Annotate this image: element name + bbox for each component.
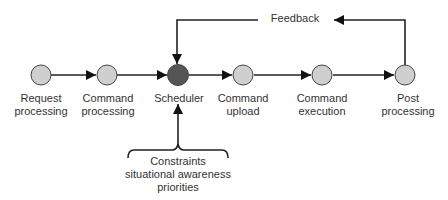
feedback-line-right — [334, 20, 405, 65]
node-command-execution — [312, 65, 332, 85]
label-line-2: execution — [297, 105, 348, 118]
label-line-2: upload — [218, 105, 269, 118]
label-command-upload: Command upload — [218, 92, 269, 118]
label-scheduler: Scheduler — [154, 92, 204, 105]
feedback-label: Feedback — [267, 12, 323, 25]
feedback-loop — [177, 20, 405, 65]
label-line-2: processing — [381, 105, 434, 118]
label-line-2: processing — [14, 105, 67, 118]
constraints-line-3: priorities — [125, 181, 231, 194]
constraints-brace — [128, 104, 228, 158]
label-command-processing: Command processing — [81, 92, 134, 118]
label-post-processing: Post processing — [381, 92, 434, 118]
feedback-line-left — [177, 20, 258, 64]
constraints-label: Constraints situational awareness priori… — [125, 155, 231, 194]
node-command-upload — [233, 65, 253, 85]
node-post-processing — [395, 65, 415, 85]
label-request-processing: Request processing — [14, 92, 67, 118]
label-line-1: Command — [218, 92, 269, 105]
node-scheduler — [168, 65, 189, 86]
node-request-processing — [31, 65, 51, 85]
label-command-execution: Command execution — [297, 92, 348, 118]
node-command-processing — [97, 65, 117, 85]
label-line-2: processing — [81, 105, 134, 118]
label-line-1: Scheduler — [154, 92, 204, 105]
constraints-line-2: situational awareness — [125, 168, 231, 181]
label-line-1: Post — [381, 92, 434, 105]
label-line-1: Command — [297, 92, 348, 105]
label-line-1: Request — [14, 92, 67, 105]
label-line-1: Command — [81, 92, 134, 105]
constraints-line-1: Constraints — [125, 155, 231, 168]
